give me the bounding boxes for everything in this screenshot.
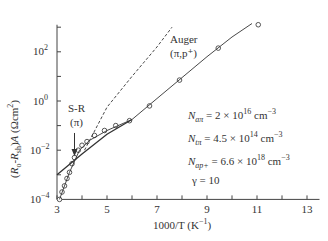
y-tick-label-m2: 10−2 <box>30 142 50 156</box>
y-tick-label-0: 100 <box>33 93 48 107</box>
y-axis-title: (Ro-Rsh)A (Ωcm2) <box>6 100 23 178</box>
param-n-a-pi: Naπ = 2 × 1016 cm−3 <box>188 104 290 127</box>
sr-label: S-R (π) <box>68 101 85 129</box>
param-n-ap-plus: Nap+ = 6.6 × 1018 cm−3 <box>188 150 290 173</box>
sr-arrow-head-icon <box>72 149 78 156</box>
x-axis-title: 1000/T (K−1) <box>153 217 211 231</box>
auger-curve <box>85 27 173 150</box>
x-tick-label: 7 <box>154 203 160 215</box>
x-tick-label: 5 <box>104 203 110 215</box>
x-tick-label: 13 <box>302 203 313 215</box>
auger-label-line2: (π,p⁺) <box>170 46 198 60</box>
x-tick-label: 3 <box>54 203 60 215</box>
parameter-list: Naπ = 2 × 1016 cm−3 Ntπ = 4.5 × 1014 cm−… <box>188 104 290 188</box>
x-tick-label: 11 <box>252 203 263 215</box>
x-tick-label: 9 <box>204 203 210 215</box>
param-gamma: γ = 10 <box>188 173 290 188</box>
y-tick-label-2: 102 <box>33 43 48 57</box>
data-point <box>256 22 261 27</box>
param-n-t-pi: Ntπ = 4.5 × 1014 cm−3 <box>188 127 290 150</box>
sr-label-line1: S-R <box>68 101 85 115</box>
sr-label-line2: (π) <box>68 115 85 129</box>
auger-label: Auger (π,p⁺) <box>170 32 198 60</box>
data-point <box>80 143 85 148</box>
y-tick-label-m4: 10−4 <box>30 191 50 205</box>
auger-label-line1: Auger <box>170 32 198 46</box>
